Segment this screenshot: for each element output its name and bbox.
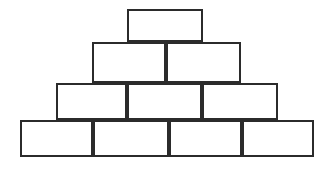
brick-row-3-brick-3 — [203, 84, 277, 119]
brick-row-3 — [57, 84, 277, 119]
brick-row-1-brick-1 — [128, 10, 202, 41]
brick-row-2 — [93, 43, 240, 82]
brick-row-4-brick-4 — [243, 121, 313, 156]
brick-row-4-brick-2 — [94, 121, 168, 156]
brick-row-4-brick-1 — [21, 121, 92, 156]
brick-row-1 — [128, 10, 202, 41]
pyramid-svg — [0, 0, 330, 169]
brick-row-4 — [21, 121, 313, 156]
brick-row-4-brick-3 — [170, 121, 241, 156]
brick-row-3-brick-2 — [128, 84, 201, 119]
brick-row-2-brick-2 — [167, 43, 240, 82]
brick-row-2-brick-1 — [93, 43, 165, 82]
brick-pyramid-figure — [0, 0, 330, 169]
brick-row-3-brick-1 — [57, 84, 126, 119]
bricks-layer — [21, 10, 313, 156]
